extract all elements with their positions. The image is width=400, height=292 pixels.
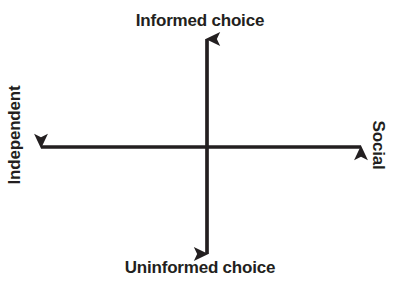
axis-label-left-independent: Independent <box>6 86 23 185</box>
axis-label-right-social: Social <box>370 121 387 170</box>
axes-diagram <box>0 0 400 292</box>
axis-label-top-informed-choice: Informed choice <box>0 12 400 29</box>
axis-label-bottom-uninformed-choice: Uninformed choice <box>0 259 400 276</box>
diagram-canvas: Informed choice Uninformed choice Indepe… <box>0 0 400 292</box>
